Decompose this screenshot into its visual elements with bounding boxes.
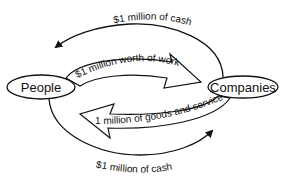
people-label: People (21, 80, 61, 95)
economy-flow-diagram: People Companies $1 million of cash $1 m… (0, 0, 286, 184)
node-people: People (7, 75, 75, 99)
cash-bottom-label: $1 million of cash (95, 159, 173, 175)
